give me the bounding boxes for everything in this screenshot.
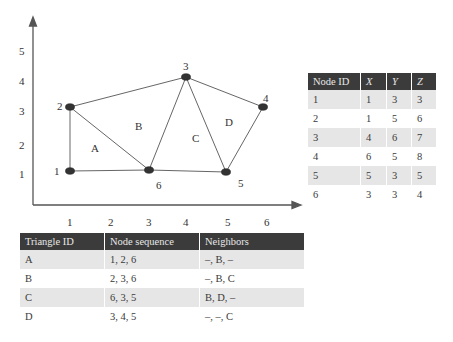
y-tick: 1 — [19, 168, 25, 180]
edge-6-5 — [149, 170, 226, 172]
cell: 3 — [308, 128, 360, 147]
cell: A — [20, 250, 104, 269]
cell: 4 — [412, 185, 436, 204]
header-z: Z — [412, 73, 436, 90]
y-tick: 5 — [19, 45, 25, 57]
cell: 3 — [387, 90, 411, 109]
node-label-1: 1 — [54, 165, 60, 177]
cell: 4 — [361, 128, 386, 147]
table-header-row: Triangle ID Node sequence Neighbors — [20, 233, 304, 250]
table-row: 5 5 3 5 — [308, 166, 436, 185]
node-2-marker — [66, 104, 75, 111]
node-label-5: 5 — [238, 177, 244, 189]
cell: 3 — [412, 90, 436, 109]
header-y: Y — [387, 73, 411, 90]
cell: 2 — [308, 109, 360, 128]
cell: 7 — [412, 128, 436, 147]
x-axis-arrow-icon — [292, 202, 301, 209]
edge-2-6 — [70, 107, 149, 170]
edge-2-3 — [70, 77, 186, 107]
node-4-marker — [259, 104, 268, 111]
y-tick: 2 — [19, 139, 25, 151]
cell: –, B, – — [200, 250, 304, 269]
edge-3-4 — [186, 77, 263, 107]
cell: 1 — [361, 109, 386, 128]
cell: 3, 4, 5 — [105, 307, 199, 326]
triangle-labels: A B C D — [91, 116, 233, 154]
triangle-label-a: A — [91, 142, 99, 154]
x-tick: 5 — [225, 216, 231, 228]
table-row: 6 3 3 4 — [308, 185, 436, 204]
cell: B, D, – — [200, 288, 304, 307]
node-label-3: 3 — [183, 60, 189, 72]
triangle-label-b: B — [135, 120, 142, 132]
node-coordinates-table: Node ID X Y Z 1 1 3 3 2 1 5 6 3 4 6 7 4 … — [307, 73, 437, 204]
x-tick: 2 — [108, 216, 114, 228]
header-x: X — [361, 73, 386, 90]
y-tick: 4 — [19, 75, 25, 87]
cell: 6 — [361, 147, 386, 166]
cell: D — [20, 307, 104, 326]
cell: 6 — [308, 185, 360, 204]
table-row: D 3, 4, 5 –, –, C — [20, 307, 304, 326]
cell: 3 — [387, 166, 411, 185]
table-row: B 2, 3, 6 –, B, C — [20, 269, 304, 288]
cell: 8 — [412, 147, 436, 166]
table-row: 4 6 5 8 — [308, 147, 436, 166]
cell: 5 — [361, 166, 386, 185]
edge-3-5 — [186, 77, 226, 172]
edge-1-6 — [70, 170, 149, 171]
y-tick-labels: 1 2 3 4 5 — [19, 45, 25, 180]
header-node-sequence: Node sequence — [105, 233, 199, 250]
table-row: C 6, 3, 5 B, D, – — [20, 288, 304, 307]
cell: 6, 3, 5 — [105, 288, 199, 307]
table-row: 2 1 5 6 — [308, 109, 436, 128]
cell: 1 — [308, 90, 360, 109]
nodes — [66, 74, 268, 176]
cell: 3 — [361, 185, 386, 204]
node-1-marker — [66, 168, 75, 175]
cell: C — [20, 288, 104, 307]
cell: 5 — [387, 147, 411, 166]
cell: 6 — [387, 128, 411, 147]
y-axis-arrow-icon — [30, 17, 37, 26]
y-tick: 3 — [19, 105, 25, 117]
cell: 5 — [412, 166, 436, 185]
tin-diagram: 1 2 3 4 5 1 2 3 4 5 6 1 2 3 4 — [0, 0, 310, 232]
x-tick: 3 — [146, 216, 152, 228]
triangle-label-d: D — [225, 116, 233, 128]
edges — [70, 77, 263, 172]
header-node-id: Node ID — [308, 73, 360, 90]
edge-3-6 — [149, 77, 186, 170]
cell: 3 — [387, 185, 411, 204]
x-tick: 1 — [67, 216, 73, 228]
node-6-marker — [145, 167, 154, 174]
node-labels: 1 2 3 4 5 6 — [54, 60, 269, 191]
node-label-2: 2 — [57, 100, 63, 112]
cell: –, B, C — [200, 269, 304, 288]
table-row: 3 4 6 7 — [308, 128, 436, 147]
header-neighbors: Neighbors — [200, 233, 304, 250]
node-label-4: 4 — [263, 92, 269, 104]
cell: 5 — [308, 166, 360, 185]
triangle-topology-table: Triangle ID Node sequence Neighbors A 1,… — [19, 233, 305, 326]
cell: –, –, C — [200, 307, 304, 326]
cell: 1, 2, 6 — [105, 250, 199, 269]
table-header-row: Node ID X Y Z — [308, 73, 436, 90]
node-5-marker — [222, 169, 231, 176]
node-3-marker — [182, 74, 191, 81]
x-tick: 4 — [183, 216, 189, 228]
x-tick-labels: 1 2 3 4 5 6 — [67, 216, 270, 228]
node-label-6: 6 — [156, 179, 162, 191]
triangle-label-c: C — [192, 132, 199, 144]
x-tick: 6 — [264, 216, 270, 228]
header-triangle-id: Triangle ID — [20, 233, 104, 250]
cell: 5 — [387, 109, 411, 128]
table-row: A 1, 2, 6 –, B, – — [20, 250, 304, 269]
cell: 6 — [412, 109, 436, 128]
cell: 2, 3, 6 — [105, 269, 199, 288]
table-row: 1 1 3 3 — [308, 90, 436, 109]
cell: 4 — [308, 147, 360, 166]
cell: B — [20, 269, 104, 288]
cell: 1 — [361, 90, 386, 109]
